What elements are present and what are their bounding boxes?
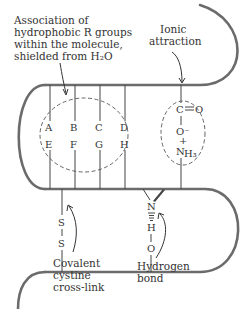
sulfur-2: S <box>58 238 65 249</box>
bottom-tail <box>18 272 45 309</box>
sulfur-1: S <box>58 217 65 228</box>
ionic-group: C O O⁻ + N H₃ <box>161 85 205 189</box>
label-hydrogen-bond: Hydrogen bond <box>137 213 190 284</box>
svg-text:attraction: attraction <box>149 35 202 47</box>
hydrophobic-arrow <box>60 63 66 93</box>
r-group-h: H <box>120 139 129 150</box>
svg-text:Association of: Association of <box>13 14 90 26</box>
svg-text:within the molecule,: within the molecule, <box>14 38 123 50</box>
left-loop <box>19 85 45 189</box>
carbonyl-oxygen: O <box>195 104 203 115</box>
r-group-f: F <box>70 139 77 150</box>
r-group-d: D <box>120 122 128 133</box>
hydrophobic-region-ellipse <box>40 98 128 172</box>
svg-text:cross-link: cross-link <box>53 281 105 293</box>
r-group-g: G <box>95 139 103 150</box>
svg-text:Covalent: Covalent <box>53 257 101 269</box>
svg-text:bond: bond <box>137 272 164 284</box>
protein-structure-diagram: A B C D E F G H C O O⁻ + N H₃ S S N <box>0 0 242 309</box>
hydrophobic-r-groups: A B C D E F G H <box>40 85 129 189</box>
svg-text:hydrophobic R groups: hydrophobic R groups <box>14 26 132 38</box>
r-group-a: A <box>44 122 53 133</box>
ionic-arrow <box>172 52 182 82</box>
svg-text:cystine: cystine <box>53 269 91 281</box>
label-ionic: Ionic attraction <box>149 23 202 83</box>
svg-text:shielded from H₂O: shielded from H₂O <box>14 50 113 62</box>
ammonium-h3: H₃ <box>184 148 197 159</box>
hbond-hydrogen: H <box>147 222 156 233</box>
hbond-oxygen: O <box>147 243 155 254</box>
ammonium-charge: + <box>179 135 187 146</box>
svg-text:Hydrogen: Hydrogen <box>137 260 190 272</box>
r-group-b: B <box>70 122 77 133</box>
hbond-nitrogen: N <box>147 201 156 212</box>
carbonyl-carbon: C <box>176 104 184 115</box>
covalent-arrow <box>69 206 76 252</box>
svg-text:Ionic: Ionic <box>160 23 187 35</box>
r-group-e: E <box>45 139 52 150</box>
r-group-c: C <box>95 122 103 133</box>
label-hydrophobic: Association of hydrophobic R groups with… <box>13 14 132 95</box>
hydrogen-arrow <box>156 214 166 258</box>
